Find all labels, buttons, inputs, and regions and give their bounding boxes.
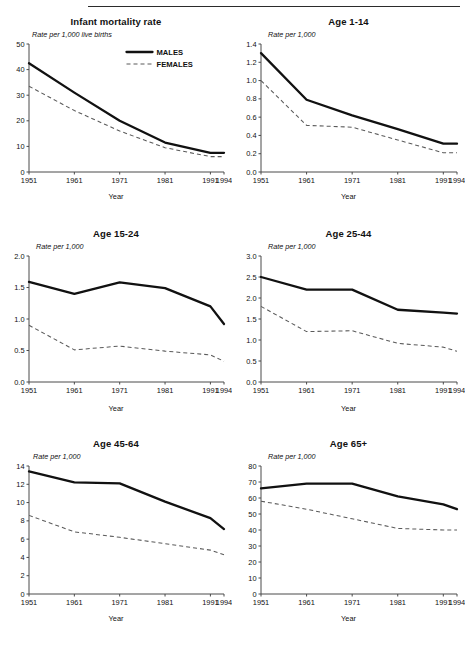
plot-svg-4: 02468101214195119611971198119911994 <box>0 452 232 624</box>
x-tick-label: 1981 <box>157 386 173 395</box>
y-tick-label: 1.0 <box>246 76 256 85</box>
x-tick-label: 1971 <box>344 386 360 395</box>
y-tick-label: 80 <box>248 462 256 471</box>
chart-title: Age 65+ <box>232 438 465 449</box>
y-tick-label: 2.5 <box>246 273 256 282</box>
y-tick-label: 0.6 <box>246 113 256 122</box>
x-tick-label: 1971 <box>111 386 127 395</box>
series-line-females <box>29 515 224 554</box>
x-tick-label: 1994 <box>216 176 232 185</box>
chart-title: Age 25-44 <box>232 228 465 239</box>
x-axis-label: Year <box>232 614 465 623</box>
y-tick-label: 1.0 <box>246 336 256 345</box>
y-tick-label: 2 <box>20 571 24 580</box>
y-axis-label: Rate per 1,000 <box>33 452 81 461</box>
y-axis-label: Rate per 1,000 <box>36 242 84 251</box>
plot-svg-0: 01020304050195119611971198119911994MALES… <box>0 30 232 202</box>
plot-area: Rate per 1,000 0.00.51.01.52.01951196119… <box>0 242 232 414</box>
plot-svg-5: 0102030405060708019511961197119811991199… <box>232 452 465 624</box>
x-tick-label: 1981 <box>157 598 173 607</box>
legend-label-males: MALES <box>157 48 184 57</box>
x-tick-label: 1961 <box>66 176 82 185</box>
y-tick-label: 50 <box>248 510 256 519</box>
x-tick-label: 1994 <box>449 176 465 185</box>
plot-area: Rate per 1,000 0.00.20.40.60.81.01.21.41… <box>232 30 465 202</box>
x-tick-label: 1951 <box>21 176 37 185</box>
y-tick-label: 2.0 <box>246 294 256 303</box>
x-tick-label: 1961 <box>66 386 82 395</box>
y-tick-label: 0.5 <box>14 346 24 355</box>
series-line-males <box>29 63 224 153</box>
y-tick-label: 60 <box>248 494 256 503</box>
x-tick-label: 1981 <box>390 598 406 607</box>
x-tick-label: 1961 <box>298 176 314 185</box>
plot-area: Rate per 1,000 live births 0102030405019… <box>0 30 232 202</box>
chart-title: Age 15-24 <box>0 228 232 239</box>
header-rule <box>88 6 460 7</box>
x-tick-label: 1981 <box>390 176 406 185</box>
series-line-females <box>29 86 224 156</box>
chart-title: Age 1-14 <box>232 16 465 27</box>
x-tick-label: 1981 <box>390 386 406 395</box>
x-axis-label: Year <box>232 192 465 201</box>
y-tick-label: 0.5 <box>246 357 256 366</box>
plot-area: Rate per 1,000 0.00.51.01.52.02.53.01951… <box>232 242 465 414</box>
y-tick-label: 0.8 <box>246 94 256 103</box>
series-line-females <box>261 306 457 351</box>
y-tick-label: 70 <box>248 478 256 487</box>
y-tick-label: 1.0 <box>14 315 24 324</box>
x-tick-label: 1951 <box>21 598 37 607</box>
x-tick-label: 1951 <box>253 176 269 185</box>
y-tick-label: 1.4 <box>246 40 256 49</box>
series-line-males <box>261 277 457 314</box>
chart-panel-age-65-plus: Age 65+ Rate per 1,000 01020304050607080… <box>232 434 465 645</box>
x-tick-label: 1951 <box>253 386 269 395</box>
x-tick-label: 1951 <box>253 598 269 607</box>
chart-panel-infant-mortality-rate: Infant mortality rate Rate per 1,000 liv… <box>0 12 232 224</box>
y-tick-label: 20 <box>16 116 24 125</box>
y-tick-label: 10 <box>248 574 256 583</box>
chart-panel-age-25-44: Age 25-44 Rate per 1,000 0.00.51.01.52.0… <box>232 224 465 434</box>
series-line-males <box>29 282 224 324</box>
chart-panel-age-15-24: Age 15-24 Rate per 1,000 0.00.51.01.52.0… <box>0 224 232 434</box>
x-axis-label: Year <box>0 614 232 623</box>
chart-panel-age-1-14: Age 1-14 Rate per 1,000 0.00.20.40.60.81… <box>232 12 465 224</box>
x-tick-label: 1951 <box>21 386 37 395</box>
series-line-females <box>261 501 457 530</box>
y-tick-label: 6 <box>20 535 24 544</box>
x-tick-label: 1994 <box>216 386 232 395</box>
y-tick-label: 8 <box>20 516 24 525</box>
y-tick-label: 4 <box>20 553 24 562</box>
chart-panel-age-45-64: Age 45-64 Rate per 1,000 024681012141951… <box>0 434 232 645</box>
series-line-males <box>261 484 457 510</box>
plot-area: Rate per 1,000 0102030405060708019511961… <box>232 452 465 624</box>
legend-label-females: FEMALES <box>157 60 193 69</box>
x-tick-label: 1971 <box>111 176 127 185</box>
y-tick-label: 0.2 <box>246 149 256 158</box>
plot-svg-1: 0.00.20.40.60.81.01.21.41951196119711981… <box>232 30 465 202</box>
y-axis-label: Rate per 1,000 live births <box>32 30 112 39</box>
y-tick-label: 1.5 <box>14 283 24 292</box>
y-tick-label: 50 <box>16 40 24 49</box>
x-tick-label: 1994 <box>216 598 232 607</box>
y-tick-label: 2.0 <box>14 252 24 261</box>
x-axis-label: Year <box>232 404 465 413</box>
plot-area: Rate per 1,000 0246810121419511961197119… <box>0 452 232 624</box>
y-tick-label: 10 <box>16 142 24 151</box>
x-axis-label: Year <box>0 404 232 413</box>
plot-svg-3: 0.00.51.01.52.02.53.01951196119711981199… <box>232 242 465 412</box>
y-tick-label: 10 <box>16 498 24 507</box>
x-axis-label: Year <box>0 192 232 201</box>
y-tick-label: 1.2 <box>246 58 256 67</box>
plot-svg-2: 0.00.51.01.52.0195119611971198119911994 <box>0 242 232 412</box>
chart-grid: Infant mortality rate Rate per 1,000 liv… <box>0 12 465 645</box>
series-line-females <box>29 325 224 361</box>
x-tick-label: 1961 <box>66 598 82 607</box>
y-tick-label: 0.4 <box>246 131 256 140</box>
y-tick-label: 20 <box>248 558 256 567</box>
y-tick-label: 3.0 <box>246 252 256 261</box>
chart-title: Infant mortality rate <box>0 16 232 27</box>
x-tick-label: 1961 <box>298 598 314 607</box>
x-tick-label: 1961 <box>298 386 314 395</box>
x-tick-label: 1971 <box>344 176 360 185</box>
